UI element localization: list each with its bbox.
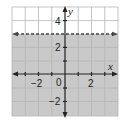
y-tick-label-neg2: −2 [49, 96, 61, 107]
inequality-graph: y x 4 2 −2 0 −2 2 [0, 0, 121, 122]
origin-label: 0 [56, 77, 62, 88]
x-axis-label: x [107, 60, 113, 72]
y-axis-label: y [67, 5, 73, 17]
x-tick-label-neg2: −2 [31, 78, 43, 89]
y-tick-label-2: 2 [55, 42, 61, 53]
y-tick-label-4: 4 [55, 16, 61, 27]
x-tick-label-2: 2 [88, 78, 94, 89]
